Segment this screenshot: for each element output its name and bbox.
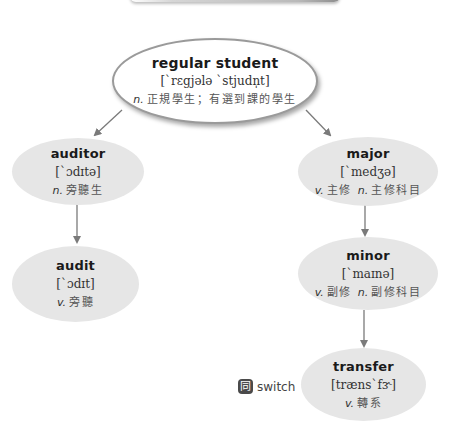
definition-minor: v.副修n.副修科目 (315, 285, 422, 300)
phonetic-major: [ˋmedʒə] (340, 164, 395, 181)
pos-label: n. (358, 286, 368, 299)
top-shadow-bar (130, 0, 340, 2)
pos-label: v. (315, 286, 324, 299)
definition-text: 轉系 (357, 397, 382, 410)
phonetic-audit: [ˋɔdɪt] (56, 276, 94, 293)
definition-text: 主修科目 (371, 184, 421, 197)
definition-text: 旁聽 (69, 296, 94, 309)
synonym-word: switch (257, 380, 295, 394)
definition-text: 正規學生；有選到課的學生 (147, 93, 297, 106)
term-auditor: auditor (51, 146, 106, 162)
pos-label: n. (53, 184, 63, 197)
term-major: major (346, 146, 389, 162)
pos-label: v. (315, 184, 324, 197)
node-audit: audit [ˋɔdɪt] v.旁聽 (12, 246, 139, 322)
definition-text: 副修科目 (371, 286, 421, 299)
definition-transfer: v.轉系 (345, 396, 382, 411)
arrow-regular-to-auditor (95, 110, 122, 135)
phonetic-transfer: [trænsˋfɝ] (331, 377, 396, 394)
node-auditor: auditor [ˋɔdɪtə] n.旁聽生 (12, 138, 144, 205)
pos-label: v. (57, 296, 66, 309)
term-regular-student: regular student (152, 55, 279, 71)
arrow-regular-to-major (306, 110, 330, 135)
pos-label: v. (345, 397, 354, 410)
node-transfer: transfer [trænsˋfɝ] v.轉系 (301, 348, 426, 421)
term-audit: audit (56, 258, 95, 274)
definition-regular-student: n.正規學生；有選到課的學生 (133, 92, 296, 107)
pos-label: n. (133, 93, 143, 106)
synonym-marker: 同 switch (238, 379, 295, 394)
definition-text: 副修 (327, 286, 352, 299)
definition-major: v.主修n.主修科目 (315, 183, 422, 198)
node-major: major [ˋmedʒə] v.主修n.主修科目 (298, 137, 438, 206)
definition-text: 主修 (327, 184, 352, 197)
phonetic-regular-student: [ˋrɛgjələ ˋstjudn̩t] (160, 73, 269, 90)
term-transfer: transfer (333, 359, 394, 375)
pos-label: n. (358, 184, 368, 197)
node-minor: minor [ˋmaɪnə] v.副修n.副修科目 (298, 237, 438, 310)
definition-audit: v.旁聽 (57, 295, 94, 310)
phonetic-minor: [ˋmaɪnə] (342, 266, 395, 283)
synonym-icon: 同 (238, 379, 253, 394)
phonetic-auditor: [ˋɔdɪtə] (55, 164, 101, 181)
node-regular-student: regular student [ˋrɛgjələ ˋstjudn̩t] n.正… (112, 38, 318, 124)
term-minor: minor (346, 248, 390, 264)
definition-text: 旁聽生 (66, 184, 104, 197)
definition-auditor: n.旁聽生 (53, 183, 104, 198)
